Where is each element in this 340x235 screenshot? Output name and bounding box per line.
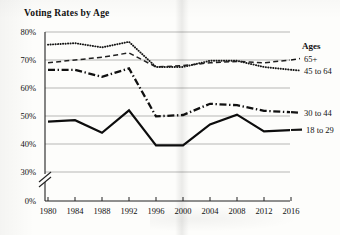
legend-item-18-to-29: 18 to 29 xyxy=(306,125,334,135)
y-tick-label-60: 60% xyxy=(8,83,36,93)
legend-title: Ages xyxy=(302,41,321,51)
legend-stub-65-plus xyxy=(291,59,300,61)
x-tick-marks xyxy=(48,197,291,201)
y-tick-label-40: 40% xyxy=(8,139,36,149)
y-tick-label-50: 50% xyxy=(8,111,36,121)
series-lines xyxy=(48,42,291,146)
legend-stub-45-to-64 xyxy=(291,70,300,71)
y-tick-label-70: 70% xyxy=(8,55,36,65)
chart-page: Voting Rates by Age xyxy=(0,0,340,235)
legend-stub-30-to-44 xyxy=(291,112,300,113)
chart-plot-area xyxy=(0,0,340,235)
series-line-30-to-44 xyxy=(48,68,291,116)
legend-item-45-to-64: 45 to 64 xyxy=(304,66,332,76)
x-tick-label-2016: 2016 xyxy=(274,206,308,216)
y-tick-label-80: 80% xyxy=(8,27,36,37)
gridlines xyxy=(45,32,290,172)
y-tick-label-30: 30% xyxy=(8,167,36,177)
y-tick-label-0: 0% xyxy=(8,196,36,206)
legend-item-65-plus: 65+ xyxy=(304,54,317,64)
legend-item-30-to-44: 30 to 44 xyxy=(304,108,332,118)
legend-line-stubs xyxy=(291,59,302,131)
